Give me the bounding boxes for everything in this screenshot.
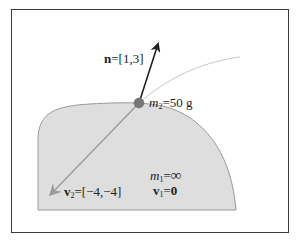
small-mass-ball [134,98,144,108]
large-velocity-label: v1=0 [153,184,177,199]
large-mass-label: m1=∞ [150,168,181,184]
normal-vector-label: n=[1,3] [104,52,144,65]
small-mass-label: m2=50 g [149,96,192,111]
collision-diagram [0,0,300,246]
small-velocity-label: v2=[−4,−4] [64,185,121,200]
